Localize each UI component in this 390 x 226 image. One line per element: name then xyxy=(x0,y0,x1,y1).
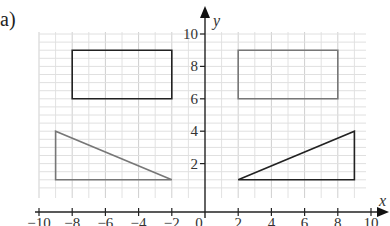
x-tick-label: 0 xyxy=(195,215,203,226)
y-tick-label: 6 xyxy=(191,91,199,107)
coordinate-grid-chart: −10−8−6−4−20246810246810xy xyxy=(0,0,390,226)
x-tick-label: −6 xyxy=(97,215,113,226)
tick-labels: −10−8−6−4−20246810246810xy xyxy=(27,12,386,226)
x-tick-label: 8 xyxy=(334,215,342,226)
axes xyxy=(35,6,389,218)
y-axis-arrow-icon xyxy=(200,6,210,18)
grid-lines xyxy=(39,32,366,198)
x-tick-label: 2 xyxy=(234,215,242,226)
x-axis-label: x xyxy=(378,192,386,209)
y-axis-label: y xyxy=(211,12,221,30)
x-tick-label: −4 xyxy=(131,215,147,226)
x-tick-label: 6 xyxy=(301,215,309,226)
y-tick-label: 4 xyxy=(191,123,199,139)
y-tick-label: 10 xyxy=(183,26,198,42)
x-tick-label: 4 xyxy=(268,215,276,226)
x-tick-label: −10 xyxy=(27,215,50,226)
x-tick-label: −2 xyxy=(164,215,180,226)
x-tick-label: 10 xyxy=(364,215,379,226)
x-tick-label: −8 xyxy=(64,215,80,226)
y-tick-label: 8 xyxy=(191,58,199,74)
y-tick-label: 2 xyxy=(191,156,199,172)
